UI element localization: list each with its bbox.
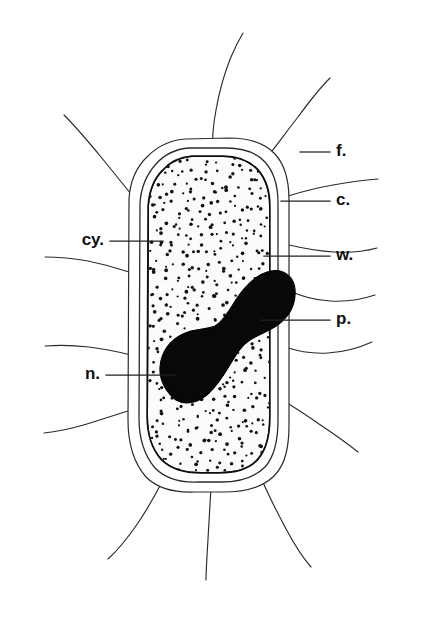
- cytoplasm-dot: [222, 383, 224, 385]
- cytoplasm-dot: [212, 409, 215, 412]
- cytoplasm-dot: [260, 223, 263, 226]
- cytoplasm-dot: [214, 191, 217, 194]
- cytoplasm-dot: [259, 197, 262, 200]
- cytoplasm-dot: [173, 225, 176, 228]
- cytoplasm-dot: [161, 208, 164, 211]
- cytoplasm-dot: [181, 263, 185, 267]
- cytoplasm-dot: [215, 283, 218, 286]
- cytoplasm-dot: [152, 370, 155, 373]
- cytoplasm-dot: [232, 380, 234, 382]
- cytoplasm-dot: [236, 255, 238, 257]
- cytoplasm-dot: [184, 290, 188, 294]
- cytoplasm-dot: [267, 406, 269, 408]
- cytoplasm-dot: [164, 268, 168, 272]
- cytoplasm-dot: [232, 244, 234, 246]
- cytoplasm-dot: [197, 415, 199, 417]
- cytoplasm-dot: [253, 233, 255, 235]
- cytoplasm-dot: [215, 440, 217, 442]
- cytoplasm-dot: [196, 460, 199, 463]
- cytoplasm-dot: [149, 324, 152, 327]
- cytoplasm-dot: [233, 451, 236, 454]
- cytoplasm-dot: [257, 418, 260, 421]
- cytoplasm-dot: [170, 244, 173, 247]
- cytoplasm-dot: [223, 469, 226, 472]
- cytoplasm-dot: [153, 340, 155, 342]
- cytoplasm-dot: [242, 260, 244, 262]
- cytoplasm-dot: [199, 210, 202, 213]
- cytoplasm-dot: [188, 275, 191, 278]
- cytoplasm-dot: [214, 253, 217, 256]
- cytoplasm-dot: [238, 437, 242, 441]
- cytoplasm-dot: [255, 396, 258, 399]
- cytoplasm-dot: [231, 163, 234, 166]
- cytoplasm-dot: [209, 460, 211, 462]
- cytoplasm-dot: [242, 277, 245, 280]
- cytoplasm-dot: [201, 204, 205, 208]
- label-cell-wall: w.: [335, 245, 353, 264]
- cytoplasm-dot: [171, 288, 173, 290]
- cytoplasm-dot: [220, 240, 223, 243]
- cytoplasm-dot: [197, 250, 200, 253]
- cytoplasm-dot: [221, 303, 225, 307]
- cytoplasm-dot: [226, 404, 230, 408]
- cytoplasm-dot: [185, 234, 188, 237]
- cytoplasm-dot: [201, 295, 204, 298]
- cytoplasm-dot: [248, 187, 251, 190]
- cytoplasm-dot: [209, 412, 211, 414]
- cytoplasm-dot: [238, 164, 242, 168]
- cytoplasm-dot: [246, 229, 249, 232]
- cytoplasm-dot: [189, 188, 192, 191]
- cytoplasm-dot: [242, 356, 245, 359]
- cytoplasm-dot: [164, 277, 168, 281]
- cytoplasm-dot: [257, 251, 260, 254]
- cytoplasm-dot: [177, 314, 180, 317]
- cytoplasm-dot: [177, 233, 180, 236]
- label-nucleoid: n.: [85, 364, 100, 383]
- cytoplasm-dot: [188, 244, 190, 246]
- cytoplasm-dot: [162, 423, 165, 426]
- cytoplasm-dot: [200, 233, 204, 237]
- cytoplasm-dot: [206, 275, 209, 278]
- cytoplasm-dot: [174, 438, 177, 441]
- cytoplasm-dot: [227, 453, 230, 456]
- cytoplasm-dot: [261, 249, 264, 252]
- cytoplasm-dot: [241, 237, 243, 239]
- cytoplasm-dot: [238, 268, 240, 270]
- cytoplasm-dot: [165, 266, 167, 268]
- label-capsule: c.: [336, 190, 350, 209]
- cytoplasm-dot: [165, 193, 168, 196]
- cytoplasm-dot: [241, 208, 244, 211]
- cytoplasm-dot: [186, 182, 188, 184]
- cytoplasm-dot: [163, 458, 165, 460]
- cytoplasm-dot: [172, 263, 174, 265]
- bacterial-cell-figure: f.c.w.p.cy.n.: [0, 0, 423, 631]
- cytoplasm-dot: [159, 297, 163, 301]
- cytoplasm-dot: [181, 250, 184, 253]
- cytoplasm-dot: [176, 322, 179, 325]
- cytoplasm-dot: [239, 218, 242, 221]
- cytoplasm-dot: [223, 395, 226, 398]
- cytoplasm-dot: [210, 233, 213, 236]
- cytoplasm-dot: [153, 215, 157, 219]
- cytoplasm-dot: [157, 183, 161, 187]
- cytoplasm-dot: [260, 187, 262, 189]
- cytoplasm-dot: [190, 169, 193, 172]
- cytoplasm-dot: [205, 164, 207, 166]
- cytoplasm-dot: [233, 395, 237, 399]
- cytoplasm-dot: [234, 205, 236, 207]
- cytoplasm-dot: [207, 439, 211, 443]
- cytoplasm-dot: [153, 310, 157, 314]
- cytoplasm-dot: [165, 222, 169, 226]
- cytoplasm-dot: [237, 424, 240, 427]
- cytoplasm-dot: [232, 409, 234, 411]
- cytoplasm-dot: [239, 224, 241, 226]
- cytoplasm-dot: [229, 200, 232, 203]
- cytoplasm-dot: [263, 394, 266, 397]
- cytoplasm-dot: [264, 195, 266, 197]
- cytoplasm-dot: [230, 259, 233, 262]
- cytoplasm-dot: [209, 201, 213, 205]
- cytoplasm-dot: [242, 421, 244, 423]
- cytoplasm-dot: [250, 393, 253, 396]
- cytoplasm-dot: [187, 430, 190, 433]
- cytoplasm-dot: [195, 469, 197, 471]
